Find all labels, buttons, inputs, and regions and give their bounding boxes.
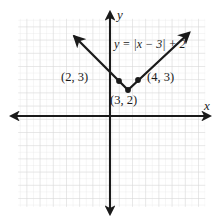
coordinate-plane-svg [0, 0, 221, 222]
equation-label: y = |x − 3| + 2 [114, 38, 186, 50]
y-axis-label: y [117, 8, 123, 21]
x-axis-label: x [204, 99, 210, 112]
point-label-left: (2, 3) [61, 71, 88, 84]
point-dot-right [135, 77, 141, 83]
absolute-value-graph-figure: y x (2, 3) (3, 2) (4, 3) y = |x − 3| + 2 [0, 0, 221, 222]
point-dot-left [116, 78, 122, 84]
point-label-vertex: (3, 2) [110, 94, 137, 107]
point-label-right: (4, 3) [147, 71, 174, 84]
